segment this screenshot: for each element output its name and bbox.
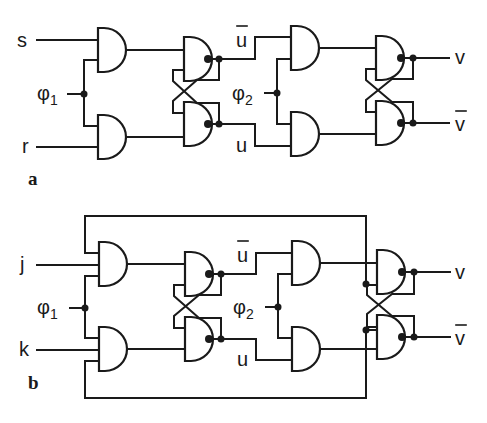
junction-dot bbox=[274, 90, 281, 97]
junction-dot bbox=[410, 120, 417, 127]
junction-dot bbox=[82, 305, 89, 312]
clock2-label: φ2 bbox=[233, 296, 254, 322]
junction-dot bbox=[410, 55, 417, 62]
junction-dot bbox=[363, 327, 370, 334]
output-label-v-bar: v bbox=[455, 113, 465, 135]
output-label-v: v bbox=[455, 46, 465, 68]
and-gate-3 bbox=[292, 241, 320, 285]
and-gate-3 bbox=[291, 26, 319, 70]
label-u-bar: u bbox=[237, 244, 248, 266]
and-gate-2 bbox=[98, 115, 126, 159]
output-label-v: v bbox=[455, 261, 465, 283]
outer-feedback-bottom bbox=[85, 330, 366, 398]
clock1-label: φ1 bbox=[37, 296, 58, 322]
output-label-v-bar: v bbox=[455, 327, 465, 349]
label-u: u bbox=[236, 134, 247, 156]
clock2-label: φ2 bbox=[232, 82, 253, 108]
wire-u bbox=[219, 124, 291, 146]
panel-a: s r φ1 u u φ2 bbox=[17, 26, 466, 189]
label-u: u bbox=[237, 348, 248, 370]
input-label-s: s bbox=[17, 29, 27, 51]
and3-gate-2 bbox=[99, 327, 127, 371]
input-label-j: j bbox=[19, 253, 24, 275]
panel-label-a: a bbox=[28, 168, 38, 189]
clock1-label: φ1 bbox=[37, 82, 58, 108]
wire-u-bar bbox=[219, 37, 291, 59]
panel-label-b: b bbox=[28, 372, 39, 393]
junction-dot bbox=[275, 304, 282, 311]
and3-gate-1 bbox=[99, 242, 127, 286]
panel-b: j k φ1 u u φ2 bbox=[19, 216, 466, 398]
input-label-r: r bbox=[22, 135, 29, 157]
and-gate-1 bbox=[98, 28, 126, 72]
label-u-bar: u bbox=[236, 29, 247, 51]
and-gate-4 bbox=[292, 327, 320, 371]
input-label-k: k bbox=[19, 338, 30, 360]
junction-dot bbox=[411, 334, 418, 341]
circuit-diagram: s r φ1 u u φ2 bbox=[0, 0, 487, 423]
junction-dot bbox=[363, 281, 370, 288]
junction-dot bbox=[81, 91, 88, 98]
junction-dot bbox=[411, 269, 418, 276]
and-gate-4 bbox=[291, 112, 319, 156]
